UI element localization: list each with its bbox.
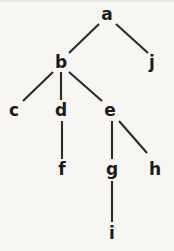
edge-b-c <box>23 72 53 101</box>
tree-diagram: a b j c d e f g h i <box>0 0 174 251</box>
node-f: f <box>58 161 65 178</box>
edge-a-b <box>69 24 99 53</box>
node-b: b <box>55 54 67 71</box>
node-c: c <box>9 102 19 119</box>
node-d: d <box>55 102 67 119</box>
edges-group <box>23 24 148 222</box>
edge-a-j <box>116 24 148 53</box>
node-e: e <box>104 102 116 119</box>
node-j: j <box>149 54 155 71</box>
node-h: h <box>149 161 161 178</box>
edge-e-h <box>119 121 147 153</box>
edge-b-e <box>69 72 102 101</box>
node-a: a <box>101 6 112 23</box>
node-g: g <box>106 161 118 178</box>
edge-layer <box>0 0 174 251</box>
node-i: i <box>109 225 115 242</box>
